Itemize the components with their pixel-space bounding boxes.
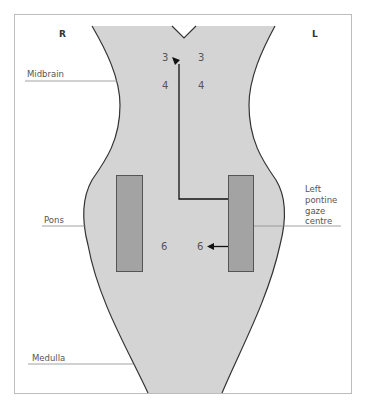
- medulla-label: Medulla: [32, 353, 65, 363]
- gaze-centre-label-line2: pontine: [305, 195, 337, 205]
- gaze-centre-label-line1: Left: [305, 184, 322, 194]
- cn6-nucleus-left: 6: [197, 241, 203, 252]
- cn3-nucleus-right: 3: [162, 52, 168, 63]
- brainstem-gaze-diagram: R L Midbrain Pons Medulla Left pontine g…: [0, 0, 367, 406]
- left-side-label: L: [312, 29, 318, 39]
- left-pontine-gaze-centre: [229, 176, 254, 272]
- gaze-centre-label-line4: centre: [305, 216, 332, 226]
- pons-label: Pons: [44, 215, 64, 225]
- cn4-nucleus-left: 4: [198, 80, 204, 91]
- right-side-label: R: [59, 29, 66, 39]
- cn6-nucleus-right: 6: [161, 241, 167, 252]
- gaze-centre-label-line3: gaze: [305, 206, 325, 216]
- cn4-nucleus-right: 4: [162, 80, 168, 91]
- right-pontine-gaze-centre: [117, 176, 143, 272]
- cn3-nucleus-left: 3: [198, 52, 204, 63]
- midbrain-label: Midbrain: [27, 69, 64, 79]
